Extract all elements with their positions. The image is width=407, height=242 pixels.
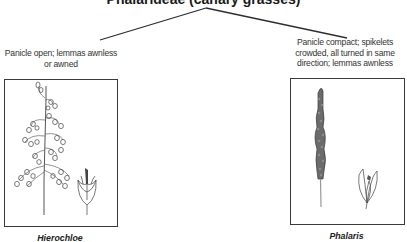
genus-caption-hierochloe: Hierochloe xyxy=(4,233,116,242)
connector-left xyxy=(100,8,206,40)
description-line: or awned xyxy=(0,59,122,70)
description-line: direction; lemmas awnless xyxy=(283,58,407,69)
connector-right xyxy=(206,8,347,38)
illustration-box-phalaris xyxy=(290,78,405,225)
hierochloe-illustration-icon xyxy=(5,80,117,226)
illustration-box-hierochloe xyxy=(4,79,118,227)
description-line: crowded, all turned in same xyxy=(283,48,407,59)
description-line: Panicle open; lemmas awnless xyxy=(0,48,122,59)
description-line: Panicle compact; spikelets xyxy=(283,37,407,48)
branch-description-phalaris: Panicle compact; spikelets crowded, all … xyxy=(283,37,407,69)
phalaris-illustration-icon xyxy=(291,79,404,224)
branch-description-hierochloe: Panicle open; lemmas awnless or awned xyxy=(0,48,122,69)
genus-caption-phalaris: Phalaris xyxy=(290,231,403,241)
